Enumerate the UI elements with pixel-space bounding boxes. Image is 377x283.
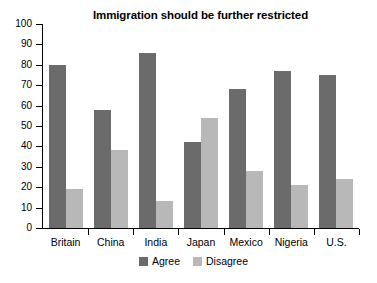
y-axis-tick <box>36 106 42 107</box>
bar-us-agree <box>319 75 336 228</box>
y-axis-tick <box>36 208 42 209</box>
x-axis-label-japan: Japan <box>178 236 223 248</box>
bar-china-disagree <box>111 150 128 228</box>
y-axis-tick <box>36 126 42 127</box>
bar-japan-disagree <box>201 118 218 228</box>
bar-mexico-agree <box>229 89 246 228</box>
x-axis-label-nigeria: Nigeria <box>269 236 314 248</box>
bar-india-disagree <box>156 201 173 228</box>
x-axis-separator <box>178 229 179 235</box>
legend-swatch-agree <box>139 257 148 266</box>
x-axis-separator <box>224 229 225 235</box>
x-axis-separator <box>269 229 270 235</box>
y-axis-tick <box>36 167 42 168</box>
bar-us-disagree <box>336 179 353 228</box>
bar-china-agree <box>94 110 111 228</box>
bar-nigeria-disagree <box>291 185 308 228</box>
x-axis-separator <box>359 229 360 235</box>
legend-item-disagree: Disagree <box>193 256 248 267</box>
legend-label-disagree: Disagree <box>206 256 248 267</box>
x-axis-label-india: India <box>133 236 178 248</box>
bar-britain-agree <box>49 65 66 228</box>
x-axis-label-us: U.S. <box>314 236 359 248</box>
legend-swatch-disagree <box>193 257 202 266</box>
x-axis-label-china: China <box>88 236 133 248</box>
x-axis-line <box>42 228 359 229</box>
x-axis-separator <box>133 229 134 235</box>
bar-chart: Immigration should be further restricted… <box>0 0 377 283</box>
bar-japan-agree <box>184 142 201 228</box>
chart-legend: AgreeDisagree <box>0 256 377 267</box>
y-axis-tick <box>36 44 42 45</box>
bar-mexico-disagree <box>246 171 263 228</box>
x-axis-label-britain: Britain <box>43 236 88 248</box>
y-axis-tick <box>36 187 42 188</box>
y-axis-tick <box>36 85 42 86</box>
y-axis-tick <box>36 65 42 66</box>
legend-label-agree: Agree <box>152 256 180 267</box>
bar-india-agree <box>139 53 156 228</box>
legend-item-agree: Agree <box>139 256 180 267</box>
bar-nigeria-agree <box>274 71 291 228</box>
y-axis-tick <box>36 24 42 25</box>
x-axis-separator <box>314 229 315 235</box>
chart-title: Immigration should be further restricted <box>0 9 377 21</box>
plot-area <box>43 24 359 228</box>
y-axis-tick <box>36 146 42 147</box>
bar-britain-disagree <box>66 189 83 228</box>
x-axis-separator <box>88 229 89 235</box>
x-axis-label-mexico: Mexico <box>224 236 269 248</box>
